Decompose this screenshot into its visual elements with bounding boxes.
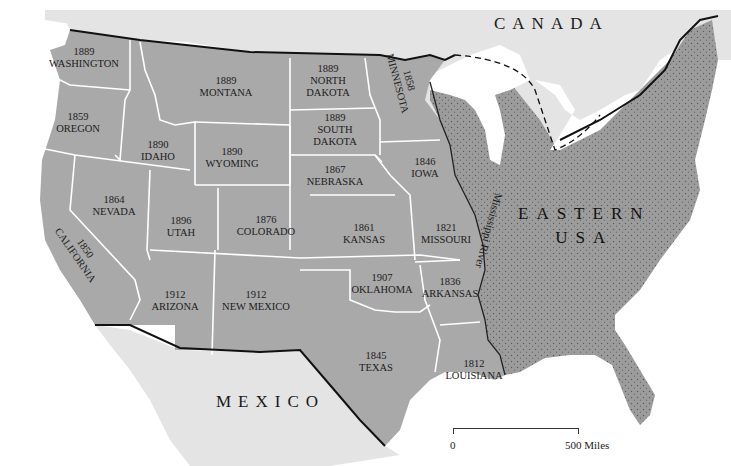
scale-bar: 0 500 Miles <box>453 428 579 458</box>
state-iowa: 1846IOWA <box>411 156 438 180</box>
state-arkansas: 1836ARKANSAS <box>422 276 479 300</box>
state-louisiana: 1812LOUISIANA <box>445 358 502 382</box>
state-idaho: 1890IDAHO <box>141 139 175 163</box>
state-new-mexico: 1912NEW MEXICO <box>222 289 290 313</box>
state-colorado: 1876COLORADO <box>237 214 295 238</box>
state-nebraska: 1867NEBRASKA <box>307 164 364 188</box>
state-north-dakota: 1889NORTH DAKOTA <box>298 63 358 99</box>
state-oregon: 1859OREGON <box>56 111 100 135</box>
state-wyoming: 1890WYOMING <box>205 146 258 170</box>
mexico-label: MEXICO <box>216 392 325 412</box>
state-south-dakota: 1889SOUTH DAKOTA <box>305 112 365 148</box>
state-missouri: 1821MISSOURI <box>421 222 471 246</box>
scale-start-label: 0 <box>450 439 456 451</box>
eastern-usa-line2: USA <box>518 226 651 250</box>
state-texas: 1845TEXAS <box>359 350 393 374</box>
state-nevada: 1864NEVADA <box>93 194 136 218</box>
canada-label: CANADA <box>494 14 609 34</box>
state-montana: 1889MONTANA <box>200 75 253 99</box>
eastern-usa-line1: EASTERN <box>518 202 651 226</box>
state-kansas: 1861KANSAS <box>343 222 385 246</box>
state-arizona: 1912ARIZONA <box>151 289 198 313</box>
eastern-usa-label: EASTERN USA <box>518 202 651 250</box>
scale-end-label: 500 Miles <box>565 439 609 451</box>
state-utah: 1896UTAH <box>167 215 195 239</box>
state-oklahoma: 1907OKLAHOMA <box>351 272 412 296</box>
state-washington: 1889WASHINGTON <box>49 46 119 70</box>
scale-bar-line <box>453 428 579 434</box>
